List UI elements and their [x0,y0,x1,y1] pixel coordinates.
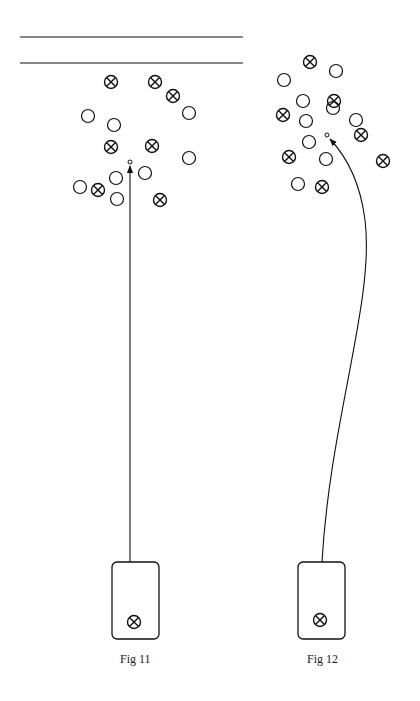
plain-circle [110,172,123,185]
figure-12 [277,56,390,640]
plain-circle [278,74,291,87]
plain-circle [139,167,152,180]
plain-circle [350,114,363,127]
plain-circle [320,153,333,166]
plain-circle [111,193,124,206]
plain-circle [330,65,343,78]
crossed-circle [92,184,105,197]
crossed-circle [328,95,341,108]
plain-circle [292,178,305,191]
diagram-canvas [0,0,420,701]
plain-circle [303,136,316,149]
trajectory-arrow [322,139,366,562]
target-point [325,133,329,137]
crossed-circle [167,90,180,103]
crossed-circle [154,194,167,207]
crossed-circle [105,141,118,154]
figure-label: Fig 12 [307,652,338,667]
start-box [112,562,159,639]
crossed-circle [149,76,162,89]
plain-circle [82,110,95,123]
crossed-circle [146,140,159,153]
start-box [298,562,345,639]
crossed-circle [277,109,290,122]
crossed-circle [316,181,329,194]
crossed-circle [304,56,317,69]
crossed-circle [314,614,327,627]
plain-circle [297,95,310,108]
plain-circle [300,115,313,128]
crossed-circle [105,76,118,89]
figure-11 [20,37,243,639]
figure-label: Fig 11 [120,652,151,667]
plain-circle [108,119,121,132]
plain-circle [74,181,87,194]
plain-circle [183,107,196,120]
crossed-circle [128,616,141,629]
target-point [128,160,132,164]
crossed-circle [377,155,390,168]
crossed-circle [355,129,368,142]
crossed-circle [283,151,296,164]
plain-circle [183,152,196,165]
